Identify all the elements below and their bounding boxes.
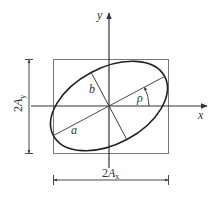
vertical-dimension-label: 2Ay xyxy=(11,95,27,112)
ellipse-diagram: y x b a ρ 2Ay 2Ax xyxy=(0,0,217,198)
y-axis-label: y xyxy=(96,8,103,22)
x-axis-label: x xyxy=(197,108,204,122)
angle-arc xyxy=(144,87,149,106)
semi-minor-label: b xyxy=(89,82,95,96)
horizontal-dimension-label: 2Ax xyxy=(102,166,119,181)
angle-label: ρ xyxy=(136,91,143,105)
semi-major-label: a xyxy=(71,123,77,137)
